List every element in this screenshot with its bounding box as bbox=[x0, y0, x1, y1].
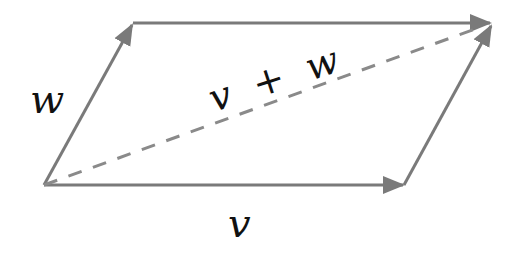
label-v-plus-w: v + w bbox=[203, 35, 350, 120]
diagram-svg: w v v + w bbox=[0, 0, 517, 253]
label-v: v bbox=[228, 200, 251, 246]
label-w: w bbox=[30, 76, 64, 122]
vector-addition-diagram: w v v + w bbox=[0, 0, 517, 253]
vector-sum-dashed bbox=[44, 28, 478, 185]
